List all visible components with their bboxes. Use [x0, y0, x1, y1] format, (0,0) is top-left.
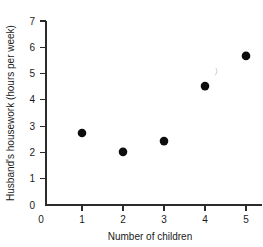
x-tick-label-4: 4: [202, 214, 208, 225]
x-tick-label-1: 1: [79, 214, 85, 225]
data-point: [242, 52, 251, 61]
x-tick-label-0: 0: [38, 214, 44, 225]
x-axis-title: Number of children: [108, 231, 192, 242]
y-tick-label-5: 5: [29, 68, 35, 79]
y-tick-label-7: 7: [29, 16, 35, 27]
y-tick-label-2: 2: [29, 147, 35, 158]
scan-artifact-mark: [215, 68, 217, 75]
data-point: [119, 148, 128, 157]
data-point: [160, 137, 169, 146]
data-point-series: [78, 52, 251, 157]
data-point: [78, 129, 87, 138]
y-tick-label-1: 1: [29, 173, 35, 184]
y-tick-label-0: 0: [29, 200, 35, 211]
x-tick-label-3: 3: [161, 214, 167, 225]
y-tick-label-3: 3: [29, 121, 35, 132]
y-axis-title: Husband's housework (hours per week): [5, 25, 16, 201]
chart-canvas: 7 6 5 4 3 2 1 0 0 1 2 3 4 5 Number of ch…: [0, 0, 263, 247]
x-tick-label-2: 2: [120, 214, 126, 225]
y-tick-label-6: 6: [29, 42, 35, 53]
scatter-chart: 7 6 5 4 3 2 1 0 0 1 2 3 4 5 Number of ch…: [0, 0, 263, 247]
x-tick-label-5: 5: [243, 214, 249, 225]
y-tick-label-4: 4: [29, 94, 35, 105]
data-point: [201, 82, 210, 91]
